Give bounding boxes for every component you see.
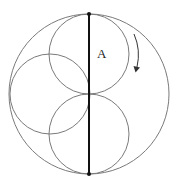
label-a: A (97, 46, 107, 61)
inner-circle-left (10, 54, 90, 134)
bottom-endpoint-dot (87, 172, 91, 176)
rotation-arrow-icon (134, 34, 141, 73)
diagram-canvas: A (0, 0, 174, 184)
top-endpoint-dot (87, 12, 91, 16)
